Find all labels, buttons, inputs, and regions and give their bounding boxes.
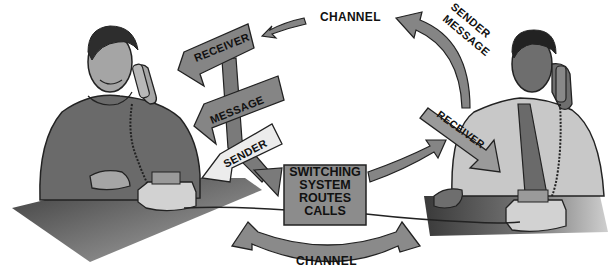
channel-bottom-label: CHANNEL: [296, 254, 357, 268]
receiver-arrow-left: RECEIVER: [178, 24, 254, 86]
channel-top-label: CHANNEL: [320, 10, 381, 24]
switch-line-4: CALLS: [284, 205, 366, 218]
telephone-communication-diagram: RECEIVER MESSAGE SENDER RECEIVER SENDER …: [0, 0, 613, 279]
trunk-arrowhead-icon: [254, 168, 282, 196]
channel-to-receiver-arrow: [262, 18, 306, 38]
box-to-receiver-arrow: [368, 140, 446, 182]
switching-system-label: SWITCHING SYSTEM ROUTES CALLS: [284, 166, 366, 218]
